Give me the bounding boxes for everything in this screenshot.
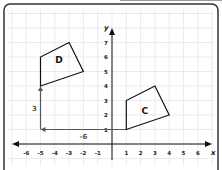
y-tick-label: 2 — [104, 112, 108, 118]
x-tick-label: -3 — [66, 150, 72, 156]
x-tick-label: -4 — [52, 150, 58, 156]
x-tick-label: -1 — [95, 150, 101, 156]
x-tick-label: -6 — [23, 150, 29, 156]
y-tick-label: 3 — [104, 98, 108, 104]
x-tick-label: 6 — [196, 150, 200, 156]
shape-d-label: D — [55, 55, 62, 65]
y-tick-label: 6 — [104, 54, 108, 60]
x-axis-label: x — [210, 149, 216, 157]
y-tick-label: 5 — [104, 69, 108, 75]
x-tick-label: 4 — [167, 150, 171, 156]
frame — [4, 4, 218, 170]
y-tick-label: 4 — [104, 83, 108, 89]
x-tick-label: 5 — [182, 150, 186, 156]
x-tick-label: -5 — [37, 150, 43, 156]
x-tick-label: -2 — [80, 150, 86, 156]
vertical-translation-label: 3 — [32, 105, 37, 113]
x-tick-label: 3 — [153, 150, 157, 156]
shape-c-label: C — [142, 106, 149, 116]
y-tick-label: 7 — [104, 40, 108, 46]
y-axis-label: y — [104, 24, 109, 32]
x-tick-label: 1 — [124, 150, 128, 156]
x-tick-label: 2 — [139, 150, 143, 156]
horizontal-translation-label: -6 — [80, 133, 88, 141]
coordinate-plane-diagram: x y -6-5-4-3-2-1123456 1234567 -6 3 C D — [0, 0, 222, 170]
